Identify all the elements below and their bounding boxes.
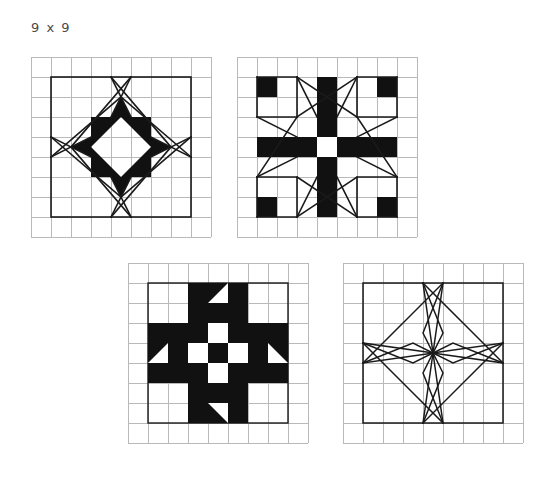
worksheet-page: 9 x 9	[0, 0, 556, 481]
block-4-drawing	[343, 263, 523, 443]
block-4-lines	[363, 283, 503, 423]
block-3-drawing	[128, 263, 308, 443]
block-2-center-cell	[317, 137, 337, 157]
block-1-drawing	[31, 57, 211, 237]
block-2-drawing	[237, 57, 417, 237]
quilt-block-4	[343, 263, 523, 443]
block-1-lines	[51, 77, 191, 217]
quilt-block-3	[128, 263, 308, 443]
grid-size-label: 9 x 9	[31, 20, 71, 35]
quilt-block-2	[237, 57, 417, 237]
quilt-block-1	[31, 57, 211, 237]
grid-lines	[31, 57, 211, 237]
block-1-fill	[71, 97, 171, 197]
